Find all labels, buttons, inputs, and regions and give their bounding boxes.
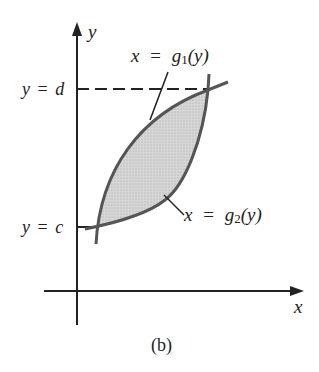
y-axis-label: y <box>86 21 97 42</box>
region-diagram: y x y = d y = c x = g1(y) x = g2(y) (b) <box>0 0 319 372</box>
figure-caption: (b) <box>151 335 172 356</box>
y-axis-arrow-icon <box>72 22 82 36</box>
lower-bound-label: y = c <box>20 217 63 237</box>
curve-g1-label: x = g1(y) <box>130 45 209 67</box>
g2-leader-line <box>164 195 184 215</box>
curve-g2-label: x = g2(y) <box>183 204 262 226</box>
x-axis-arrow-icon <box>290 286 304 296</box>
x-axis-label: x <box>293 296 303 317</box>
upper-bound-label: y = d <box>20 79 65 99</box>
